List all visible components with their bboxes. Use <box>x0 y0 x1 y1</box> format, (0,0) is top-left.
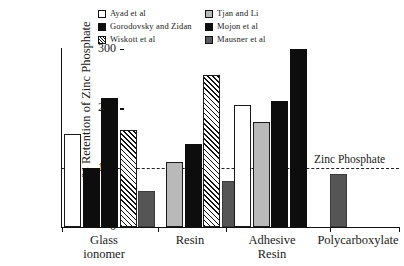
bar <box>64 134 81 227</box>
x-axis-category-label: Polycarboxylate <box>303 233 404 247</box>
y-tick-mark <box>120 49 124 50</box>
bar <box>330 174 347 227</box>
legend-label: Mausner et al <box>217 35 265 44</box>
reference-line-label: Zinc Phosphate <box>314 153 385 165</box>
y-tick-label: 300 <box>80 42 116 55</box>
legend-label: Ayad et al <box>110 9 146 18</box>
legend-item-mojon-et-al: Mojon et al <box>205 22 325 31</box>
x-axis-tick <box>399 227 400 232</box>
x-axis-tick <box>330 227 331 232</box>
legend-item-ayad-et-al: Ayad et al <box>98 9 205 18</box>
legend-label: Tjan and Li <box>217 9 259 18</box>
bar <box>234 105 251 227</box>
legend-swatch-dark-gray <box>205 36 213 44</box>
plot-area: % Retention of Zinc Phosphate 0100200300… <box>62 49 399 227</box>
legend-swatch-black <box>205 23 213 31</box>
x-axis-tick <box>158 227 159 232</box>
y-tick-mark <box>120 227 124 228</box>
legend-swatch-light-gray <box>205 10 213 18</box>
bar <box>290 49 307 227</box>
y-tick-mark <box>120 108 124 109</box>
legend-swatch-white <box>98 10 106 18</box>
legend-item-mausner-et-al: Mausner et al <box>205 35 325 44</box>
bar <box>83 168 100 227</box>
legend-label: Wiskott et al <box>110 35 155 44</box>
legend-label: Gorodovsky and Zidan <box>110 22 192 31</box>
bar <box>138 191 155 227</box>
legend-label: Mojon et al <box>217 22 258 31</box>
chart-figure: Ayad et al Tjan and Li Gorodovsky and Zi… <box>0 0 404 266</box>
legend-item-tjan-and-li: Tjan and Li <box>205 9 325 18</box>
bar <box>120 130 137 227</box>
bar <box>185 144 202 227</box>
x-axis-tick <box>62 227 63 232</box>
bar <box>271 101 288 227</box>
chart-legend: Ayad et al Tjan and Li Gorodovsky and Zi… <box>98 7 348 45</box>
x-axis-category-label: Resin <box>150 233 230 247</box>
bar <box>253 122 270 227</box>
bar <box>203 75 220 227</box>
x-axis-tick <box>226 227 227 232</box>
legend-item-gorodovsky-and-zidan: Gorodovsky and Zidan <box>98 22 205 31</box>
x-axis-category-label: Glass ionomer <box>64 233 144 261</box>
bar <box>101 98 118 227</box>
bar <box>166 162 183 227</box>
legend-swatch-black <box>98 23 106 31</box>
